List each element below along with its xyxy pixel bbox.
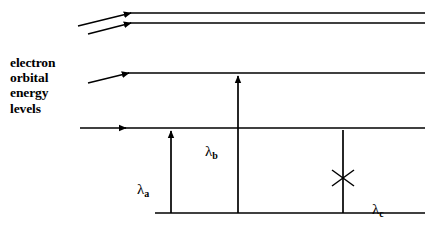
incoming-arrow-1: [78, 13, 131, 26]
energy-levels-caption: electron orbital energy levels: [10, 55, 88, 116]
lambda-a-subscript: a: [144, 188, 149, 199]
transition-c-label: λc: [372, 201, 384, 219]
incoming-arrow-3: [88, 73, 129, 83]
transition-arrows: [171, 76, 343, 213]
lambda-b-subscript: b: [212, 150, 217, 161]
energy-level-diagram: electron orbital energy levels λa λb λc: [0, 0, 433, 226]
transition-b-label: λb: [205, 143, 218, 161]
incoming-arrow-2: [88, 23, 131, 34]
lambda-c-subscript: c: [379, 208, 383, 219]
orbital-level-lines: [125, 13, 425, 213]
transition-a-label: λa: [137, 181, 149, 199]
